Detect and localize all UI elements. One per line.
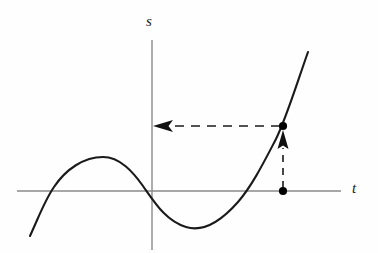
s-axis-label: s — [146, 14, 152, 29]
t-axis-point-marker — [279, 187, 287, 195]
curve-point-marker — [279, 122, 287, 130]
function-curve — [30, 52, 308, 236]
arrow-left-icon — [153, 120, 173, 132]
function-graph-figure: s t — [0, 0, 378, 253]
t-axis-label: t — [352, 181, 356, 196]
graph-canvas — [0, 0, 378, 253]
